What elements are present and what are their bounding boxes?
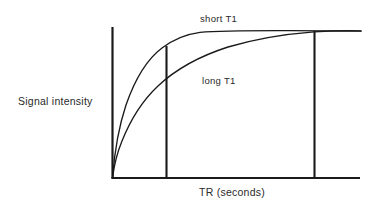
x-axis-title: TR (seconds): [199, 186, 265, 198]
curve-label-long-t1: long T1: [202, 75, 236, 86]
t1-relaxation-figure: Signal intensity TR (seconds) short T1 l…: [0, 0, 369, 213]
curve-label-short-t1: short T1: [200, 13, 237, 24]
curve-short-t1: [113, 31, 362, 178]
y-axis-title: Signal intensity: [18, 95, 93, 107]
curve-long-t1: [113, 31, 362, 178]
